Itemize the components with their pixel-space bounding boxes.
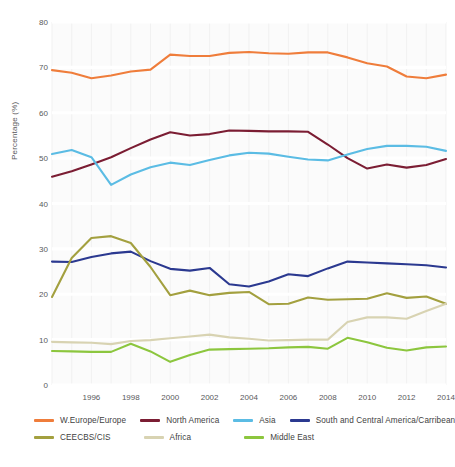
legend-color-swatch — [34, 419, 54, 422]
legend-label: W.Europe/Europe — [60, 416, 126, 425]
legend-label: Asia — [259, 416, 275, 425]
legend-item[interactable]: W.Europe/Europe — [34, 416, 126, 425]
legend-item[interactable]: Africa — [144, 433, 192, 442]
legend-item[interactable]: North America — [140, 416, 219, 425]
legend-color-swatch — [244, 436, 264, 439]
legend-color-swatch — [34, 436, 54, 439]
legend-label: Africa — [170, 433, 192, 442]
legend-label: South and Central America/Carribean — [316, 416, 455, 425]
legend-row-2: CEECBS/CISAfricaMiddle East — [34, 429, 450, 446]
legend-item[interactable]: CEECBS/CIS — [34, 433, 111, 442]
chart-legend: W.Europe/EuropeNorth AmericaAsiaSouth an… — [34, 412, 450, 446]
legend-color-swatch — [290, 419, 310, 422]
legend-item[interactable]: Middle East — [244, 433, 314, 442]
legend-color-swatch — [233, 419, 253, 422]
legend-color-swatch — [144, 436, 164, 439]
legend-label: Middle East — [270, 433, 314, 442]
legend-item[interactable]: Asia — [233, 416, 275, 425]
legend-label: CEECBS/CIS — [60, 433, 111, 442]
legend-item[interactable]: South and Central America/Carribean — [290, 416, 455, 425]
legend-color-swatch — [140, 419, 160, 422]
legend-row-1: W.Europe/EuropeNorth AmericaAsiaSouth an… — [34, 412, 450, 429]
legend-label: North America — [166, 416, 219, 425]
